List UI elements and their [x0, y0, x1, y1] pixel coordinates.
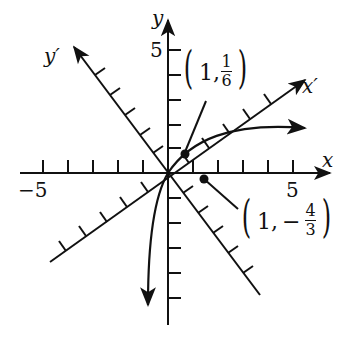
close-paren: )	[322, 195, 331, 239]
leader-line-2	[204, 179, 238, 209]
y-axis-label: y	[152, 6, 163, 30]
x-prime-axis-label: x′	[302, 74, 318, 98]
fraction-denominator: 6	[221, 73, 231, 89]
fraction-numerator: 4	[305, 203, 315, 219]
leader-line-1	[185, 101, 206, 152]
open-paren: (	[184, 46, 193, 90]
open-paren: (	[242, 195, 251, 239]
x-tick-label-min: −5	[18, 178, 47, 202]
fraction-denominator: 3	[305, 222, 315, 238]
x-tick-label-max: 5	[286, 178, 299, 202]
annotation-1-fraction: 1 6	[221, 54, 232, 89]
annotation-1-prefix: 1,	[199, 60, 220, 85]
y-prime-axis-label: y′	[44, 44, 60, 68]
x-prime-axis	[50, 80, 305, 262]
fraction-numerator: 1	[221, 54, 231, 70]
x-axis	[20, 160, 330, 173]
x-axis-label: x	[322, 148, 333, 172]
annotation-2-fraction: 4 3	[305, 203, 316, 238]
close-paren: )	[238, 46, 247, 90]
annotation-2-sign: −	[282, 209, 300, 234]
annotation-2-prefix: 1,	[257, 209, 278, 234]
y-tick-label-max: 5	[150, 38, 163, 62]
